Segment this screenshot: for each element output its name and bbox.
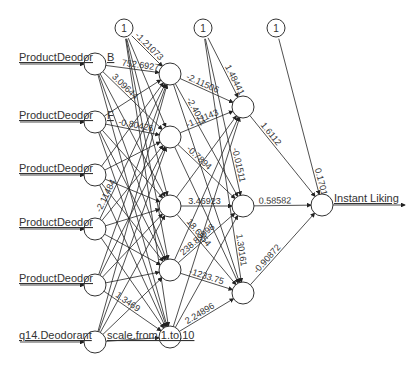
input-label: ProductDeodor (19, 109, 93, 121)
weight-label: -1233.75 (188, 266, 225, 286)
weight-label: -0.80426 (118, 117, 155, 134)
input-label: ProductDeodor (19, 216, 93, 228)
input-label-suffix: scale.from.1.to.10 (107, 329, 194, 341)
hidden2-node (232, 282, 254, 304)
hidden2-node (232, 96, 254, 118)
weight-label: -0.7894 (185, 144, 214, 172)
weight-label: -1.21073 (133, 30, 165, 62)
output-label: Instant Liking (334, 192, 399, 204)
weight-label: 3.46923 (188, 196, 221, 206)
hidden2-node (232, 195, 254, 217)
bias-label: 1 (200, 23, 206, 34)
hidden1-node (159, 259, 181, 281)
weight-label: -0.01511 (230, 147, 247, 183)
input-label-suffix: B (107, 51, 114, 63)
input-label-suffix: F (107, 109, 114, 121)
hidden1-node (159, 63, 181, 85)
input-to-hidden1-edge (99, 132, 167, 326)
bias-label: 1 (273, 23, 279, 34)
input-label: ProductDeodor (19, 51, 93, 63)
input-label: ProductDeodor (19, 272, 93, 284)
weight-label: 0.58582 (259, 195, 292, 205)
weight-label: -0.90872 (251, 242, 282, 275)
input-label: ProductDeodor (19, 162, 93, 174)
output-node (311, 194, 333, 216)
weight-label: 1.6112 (259, 120, 284, 147)
neural-network-diagram: -1.21073752.692773.09644-0.804261.3469-2… (0, 0, 417, 373)
input-label: q14.Deodorant (19, 329, 92, 341)
weight-label: 3.09644 (110, 71, 140, 101)
weight-labels: -1.21073752.692773.09644-0.804261.3469-2… (93, 30, 330, 326)
hidden1-node (159, 126, 181, 148)
node-labels: 111ProductDeodorBProductDeodorFProductDe… (19, 23, 399, 341)
bias-label: 1 (121, 23, 127, 34)
input-to-hidden1-edge (105, 142, 160, 170)
input-to-hidden1-edge (101, 238, 163, 328)
hidden1-node (159, 195, 181, 217)
